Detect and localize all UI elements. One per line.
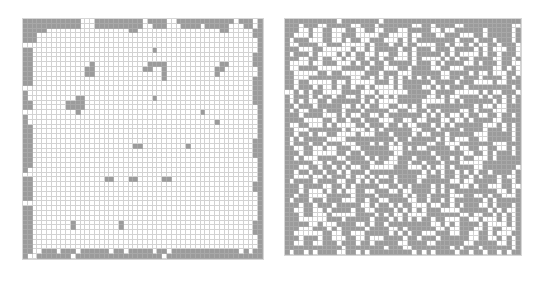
grid-cell: [258, 254, 263, 259]
right-grid: [284, 18, 522, 256]
left-grid: [22, 18, 264, 260]
grid-cell: [516, 250, 521, 255]
